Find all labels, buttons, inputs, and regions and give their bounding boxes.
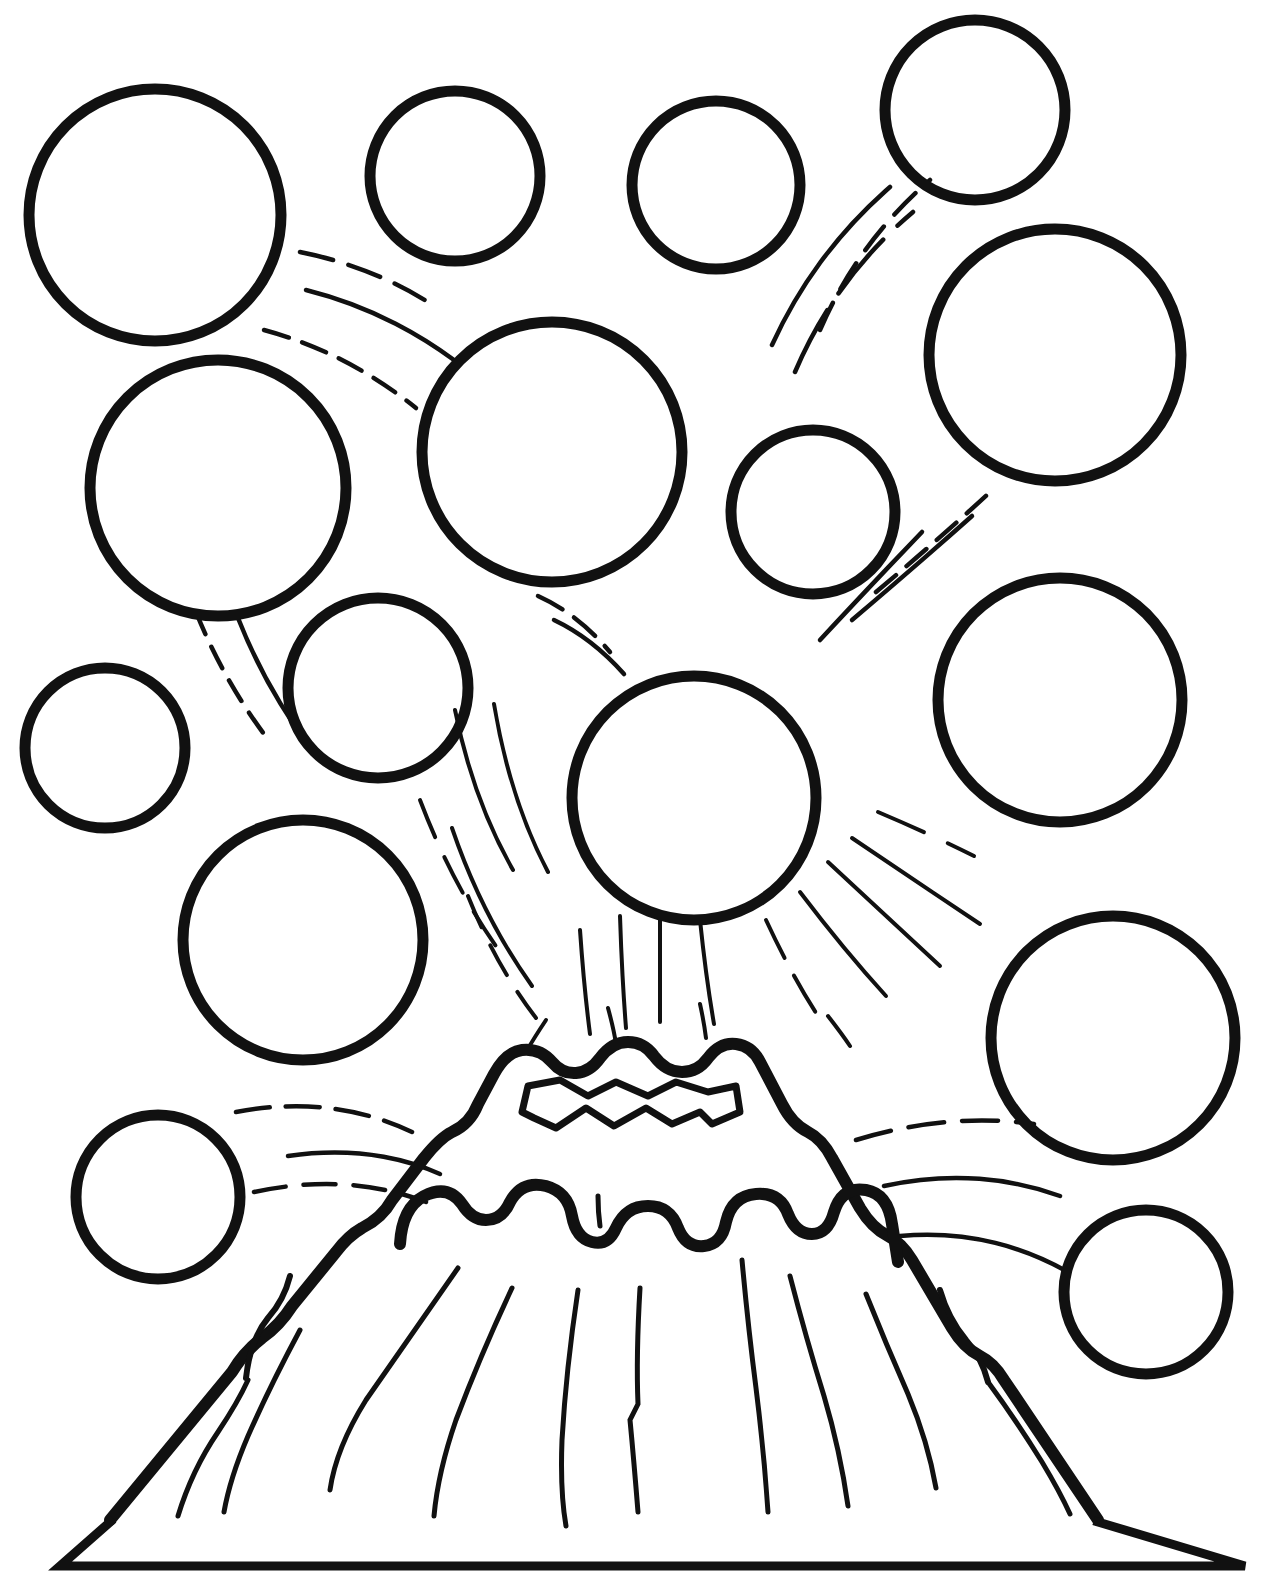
cone-slope-line [598, 1196, 600, 1226]
volcano-line-art [0, 0, 1287, 1586]
coloring-page-canvas: Erupting Volcano Coloring Page volcano-e… [0, 0, 1287, 1586]
